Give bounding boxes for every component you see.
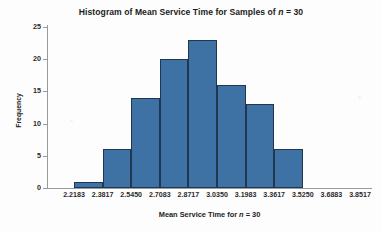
histogram-bar: [74, 182, 103, 188]
x-tick-label: 2.8717: [178, 192, 200, 199]
y-tick-label: 15: [33, 88, 41, 95]
x-tick-label: 3.8517: [349, 192, 371, 199]
y-tick-label: 5: [37, 152, 41, 159]
x-tick-label: 3.5250: [292, 192, 314, 199]
y-tick-mark: [43, 188, 47, 189]
x-tick-label: 3.6883: [321, 192, 343, 199]
x-tick-label: 3.0350: [206, 192, 228, 199]
x-tick-label: 2.7083: [149, 192, 171, 199]
y-tick-label: 0: [37, 184, 41, 191]
x-tick-label: 2.2183: [63, 192, 85, 199]
y-tick-label: 20: [33, 56, 41, 63]
histogram-bar: [246, 104, 275, 188]
x-axis-line: [47, 188, 372, 189]
x-tick-label: 2.3817: [92, 192, 114, 199]
chart-title-text-before: Histogram of Mean Service Time for Sampl…: [79, 7, 278, 17]
x-axis-label: Mean Service Time for n = 30: [47, 210, 372, 219]
y-axis-label: Frequency: [15, 81, 22, 141]
x-tick-label: 3.1983: [235, 192, 257, 199]
x-axis-label-text-before: Mean Service Time for: [159, 210, 239, 219]
histogram-bar: [274, 149, 303, 188]
histogram-bar: [160, 59, 189, 188]
plot-area: [47, 25, 372, 188]
histogram-bar: [188, 40, 217, 188]
chart-title-text-after: = 30: [284, 7, 304, 17]
histogram-bar: [131, 98, 160, 188]
histogram-bar: [217, 85, 246, 188]
y-tick-label: 25: [33, 23, 41, 30]
x-tick-label: 3.3617: [263, 192, 285, 199]
histogram-bar: [103, 149, 132, 188]
x-axis-label-text-after: = 30: [244, 210, 261, 219]
x-tick-label: 2.5450: [120, 192, 142, 199]
y-tick-label: 10: [33, 120, 41, 127]
histogram-figure: Histogram of Mean Service Time for Sampl…: [0, 0, 382, 232]
chart-title: Histogram of Mean Service Time for Sampl…: [0, 7, 382, 17]
